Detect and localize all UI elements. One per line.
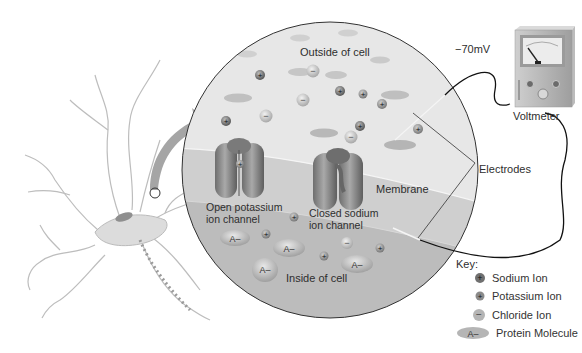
open-channel-label-line2: ion channel [206, 213, 260, 225]
outside-of-cell-label: Outside of cell [300, 46, 370, 58]
inside-of-cell-label: Inside of cell [286, 272, 347, 284]
potassium-ion-icon: + [474, 290, 486, 302]
electrodes-label: Electrodes [479, 163, 531, 175]
key-item-potassium: + Potassium Ion [474, 290, 562, 302]
svg-text:+: + [264, 230, 269, 239]
svg-text:−: − [476, 309, 482, 320]
chloride-ion-icon: − [472, 308, 486, 322]
closed-channel-label-line1: Closed sodium [309, 207, 378, 219]
svg-text:A–: A– [283, 244, 294, 254]
closed-channel-label-line2: ion channel [309, 219, 363, 231]
open-potassium-channel: + [215, 138, 264, 198]
open-channel-label-line1: Open potassium [206, 201, 282, 213]
svg-text:+: + [258, 71, 263, 80]
svg-text:−: − [310, 66, 315, 76]
key-label-protein: Protein Molecule [496, 327, 578, 339]
key-label-sodium: Sodium Ion [492, 272, 548, 284]
svg-text:+: + [361, 90, 366, 99]
key-item-protein: A– Protein Molecule [456, 326, 578, 340]
key-label-chloride: Chloride Ion [492, 309, 551, 321]
svg-text:−: − [344, 238, 349, 248]
svg-text:A–: A– [351, 260, 362, 270]
svg-text:+: + [358, 122, 363, 131]
svg-text:−: − [348, 132, 353, 142]
svg-text:+: + [292, 213, 297, 222]
svg-text:+: + [322, 252, 327, 261]
svg-text:+: + [478, 292, 483, 301]
key-item-chloride: − Chloride Ion [472, 308, 551, 322]
svg-text:+: + [477, 273, 482, 283]
voltmeter [515, 26, 575, 107]
voltage-reading-label: −70mV [455, 43, 490, 55]
voltmeter-label: Voltmeter [513, 110, 559, 122]
sodium-ion-icon: + [474, 272, 486, 284]
protein-molecule-icon: A– [456, 326, 490, 340]
svg-text:−: − [300, 95, 305, 105]
svg-text:+: + [416, 125, 421, 134]
svg-text:+: + [224, 117, 229, 126]
axon [140, 240, 190, 310]
svg-text:+: + [378, 244, 383, 253]
key-item-sodium: + Sodium Ion [474, 272, 548, 284]
svg-text:A–: A– [467, 329, 478, 339]
svg-text:A–: A– [229, 234, 240, 244]
membrane-label: Membrane [376, 183, 429, 195]
svg-text:A–: A– [259, 265, 270, 275]
key-title: Key: [456, 258, 478, 270]
svg-text:+: + [238, 160, 243, 169]
svg-text:+: + [338, 87, 343, 96]
svg-text:+: + [380, 100, 385, 109]
svg-text:−: − [263, 111, 268, 121]
key-label-potassium: Potassium Ion [492, 290, 562, 302]
